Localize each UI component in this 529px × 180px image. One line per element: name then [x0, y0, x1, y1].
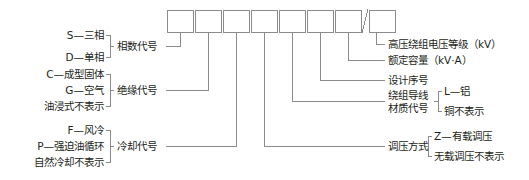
- phase-option-0: S—三相: [67, 30, 104, 41]
- leader-hv-voltage: [376, 32, 385, 44]
- bracket-regulation: [428, 136, 432, 156]
- code-box-2: [195, 10, 221, 32]
- cooling-option-2: 自然冷却不表示: [34, 157, 104, 168]
- voltage-regulation-option-0: Z—有载调压: [434, 131, 492, 142]
- insulation-group-label: 绝缘代号: [117, 85, 157, 96]
- insulation-option-2: 油浸式不表示: [44, 101, 104, 112]
- voltage-regulation-label: 调压方式: [388, 141, 428, 152]
- leader-rated-capacity: [348, 32, 385, 60]
- cooling-option-0: F—风冷: [67, 125, 104, 136]
- cooling-group-label: 冷却代号: [117, 141, 157, 152]
- code-box-7: [335, 10, 361, 32]
- bracket-insulation: [106, 74, 110, 106]
- slash-separator: [362, 9, 368, 33]
- winding-material-option-1: 铜不表示: [444, 106, 484, 117]
- hv-voltage-class-label: 高压绕组电压等级（kV）: [388, 39, 501, 50]
- leader-winding-material: [292, 32, 385, 101]
- leader-design-serial: [320, 32, 385, 80]
- winding-material-label-line1: 绕组导线: [388, 90, 428, 101]
- phase-group-label: 相数代号: [117, 41, 157, 52]
- phase-option-1: D—单相: [65, 52, 104, 63]
- bracket-winding: [438, 91, 442, 111]
- winding-material-label-line2: 材质代号: [388, 103, 428, 114]
- leader-phase: [166, 32, 180, 46]
- voltage-regulation-option-1: 无载调压不表示: [434, 151, 504, 162]
- transformer-designation-diagram: S—三相 D—单相 相数代号 C—成型固体 G—空气 油浸式不表示 绝缘代号 F…: [0, 0, 529, 180]
- insulation-option-0: C—成型固体: [46, 69, 104, 80]
- code-box-3: [223, 10, 249, 32]
- bracket-cooling: [106, 130, 110, 162]
- code-box-6: [307, 10, 333, 32]
- insulation-option-1: G—空气: [65, 85, 104, 96]
- cooling-option-1: P—强迫油循环: [37, 141, 104, 152]
- bracket-phase: [106, 35, 110, 57]
- leader-cooling: [166, 32, 236, 146]
- winding-material-option-0: L—铝: [444, 86, 470, 97]
- code-box-4: [251, 10, 277, 32]
- code-box-5: [279, 10, 305, 32]
- code-box-1: [167, 10, 193, 32]
- code-box-8: [369, 10, 395, 32]
- design-serial-label: 设计序号: [388, 75, 428, 86]
- leader-insulation: [166, 32, 208, 90]
- rated-capacity-label: 额定容量（kV·A）: [388, 55, 472, 66]
- leader-voltage-regulation: [264, 32, 385, 146]
